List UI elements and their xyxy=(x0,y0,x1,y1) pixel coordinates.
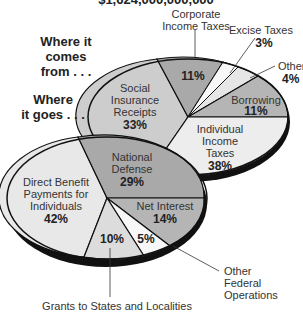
heading-comes-from-3: from . . . xyxy=(41,64,92,79)
label-other-income: Other xyxy=(278,60,303,72)
label-other-federal-1: Other xyxy=(224,265,252,277)
pct-interest: 14% xyxy=(153,212,177,226)
label-social-3: Receipts xyxy=(114,106,157,118)
pct-excise: 3% xyxy=(255,36,273,50)
label-excise: Excise Taxes xyxy=(229,24,293,36)
heading-comes-from-2: comes xyxy=(45,49,86,64)
pct-other-income: 4% xyxy=(282,72,300,86)
label-grants: Grants to States and Localities xyxy=(42,300,192,312)
pct-other-federal: 5% xyxy=(137,232,155,246)
pct-social: 33% xyxy=(123,118,147,132)
label-defense-2: Defense xyxy=(112,163,153,175)
label-direct-2: Payments for xyxy=(24,188,89,200)
label-social-2: Insurance xyxy=(111,94,159,106)
heading-goes-2: it goes . . . xyxy=(21,107,85,122)
label-interest: Net Interest xyxy=(137,200,194,212)
label-individual-1: Individual xyxy=(197,123,243,135)
heading-comes-from-1: Where it xyxy=(40,34,92,49)
label-direct-1: Direct Benefit xyxy=(23,176,89,188)
label-social-1: Social xyxy=(120,82,150,94)
label-defense-1: National xyxy=(112,151,152,163)
pct-corporate: 11% xyxy=(181,69,205,83)
leader-other-federal xyxy=(173,246,219,271)
heading-goes-1: Where xyxy=(33,92,73,107)
chart-title: $1,624,000,000,000 xyxy=(98,0,214,7)
label-individual-3: Taxes xyxy=(206,147,235,159)
label-corporate-1: Corporate xyxy=(172,8,221,20)
label-corporate-2: Income Taxes xyxy=(162,20,230,32)
label-direct-3: Individuals xyxy=(30,200,82,212)
pct-grants: 10% xyxy=(100,232,124,246)
label-individual-2: Income xyxy=(202,135,238,147)
pct-borrowing: 11% xyxy=(244,104,268,118)
pct-defense: 29% xyxy=(120,175,144,189)
budget-pie-charts: $1,624,000,000,000 W xyxy=(0,0,303,314)
label-other-federal-2: Federal xyxy=(224,277,261,289)
pct-individual: 38% xyxy=(208,159,232,173)
label-other-federal-3: Operations xyxy=(224,289,278,301)
pct-direct: 42% xyxy=(44,212,68,226)
leader-other xyxy=(250,66,275,78)
